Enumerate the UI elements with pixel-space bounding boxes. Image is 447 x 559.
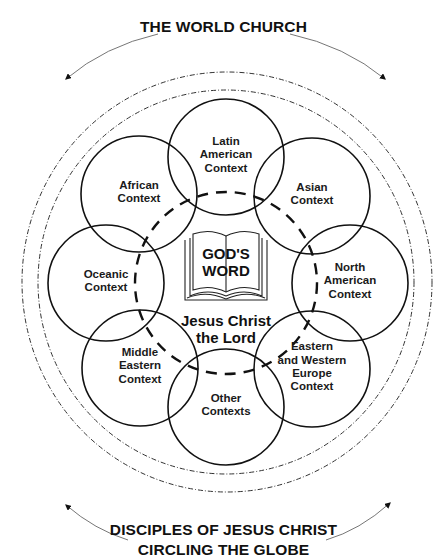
bottom-title-line-2: CIRCLING THE GLOBE — [0, 540, 447, 559]
gods-word-line-1: GOD'S — [186, 245, 266, 262]
context-label-line: Middle — [90, 346, 190, 359]
context-label-middle-eastern: MiddleEasternContext — [90, 346, 190, 386]
context-label-african: AfricanContext — [89, 179, 189, 206]
context-label-line: Context — [262, 194, 362, 207]
context-label-line: Context — [262, 380, 362, 393]
context-label-other: OtherContexts — [176, 392, 276, 419]
context-label-line: and Western — [262, 354, 362, 367]
context-label-line: Eastern — [262, 340, 362, 353]
context-label-line: North — [300, 261, 400, 274]
context-label-line: Oceanic — [56, 268, 156, 281]
gods-word-label: GOD'S WORD — [186, 245, 266, 279]
diagram-title-top: THE WORLD CHURCH — [0, 18, 447, 36]
context-label-line: Other — [176, 392, 276, 405]
context-label-line: Asian — [262, 181, 362, 194]
context-label-line: American — [300, 274, 400, 287]
context-label-line: Context — [90, 373, 190, 386]
context-label-asian: AsianContext — [262, 181, 362, 208]
context-label-line: Latin — [176, 135, 276, 148]
context-label-line: Context — [89, 192, 189, 205]
context-label-oceanic: OceanicContext — [56, 268, 156, 295]
top-left-arrow-icon — [66, 34, 158, 79]
context-label-line: Context — [56, 281, 156, 294]
context-label-line: Context — [176, 162, 276, 175]
context-label-north-american: NorthAmericanContext — [300, 261, 400, 301]
context-label-line: Context — [300, 288, 400, 301]
context-label-line: Europe — [262, 367, 362, 380]
top-arrows — [66, 34, 385, 79]
context-label-line: African — [89, 179, 189, 192]
context-label-line: Eastern — [90, 359, 190, 372]
context-label-latin-american: LatinAmericanContext — [176, 135, 276, 175]
gods-word-line-2: WORD — [186, 262, 266, 279]
bottom-title-line-1: DISCIPLES OF JESUS CHRIST — [0, 520, 447, 540]
jesus-christ-line-1: Jesus Christ — [156, 312, 296, 329]
top-right-arrow-icon — [290, 34, 385, 79]
context-label-line: Contexts — [176, 405, 276, 418]
context-label-line: American — [176, 148, 276, 161]
context-label-eastern-western-europe: Easternand WesternEuropeContext — [262, 340, 362, 394]
diagram-title-bottom: DISCIPLES OF JESUS CHRIST CIRCLING THE G… — [0, 520, 447, 559]
